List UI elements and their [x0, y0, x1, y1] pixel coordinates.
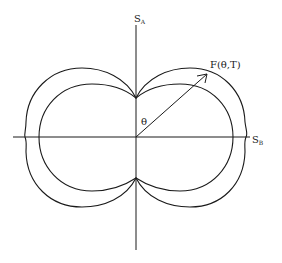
label-sa: SA [134, 13, 146, 25]
label-sb: SB [252, 134, 264, 146]
label-vector: F(θ,T) [210, 59, 241, 70]
label-theta: θ [141, 116, 147, 127]
polar-diagram: SA SB F(θ,T) θ [0, 0, 282, 263]
